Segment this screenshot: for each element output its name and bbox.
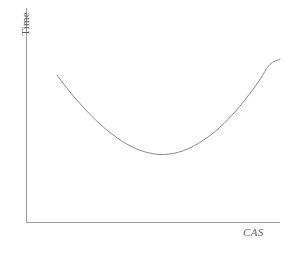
time-vs-cas-curve: [57, 59, 280, 154]
plot-area: [0, 0, 290, 253]
data-series-group: [57, 59, 280, 154]
axis-lines: [26, 8, 280, 222]
x-axis-label: CAS: [243, 226, 264, 238]
y-axis-label: Time: [19, 1, 31, 47]
chart-figure: Time CAS: [0, 0, 290, 253]
